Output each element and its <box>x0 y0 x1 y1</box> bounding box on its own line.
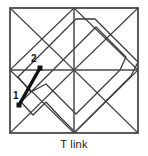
node-1-dot <box>17 103 22 108</box>
figure-caption: T link <box>0 138 148 150</box>
node-1-label: 1 <box>13 90 19 101</box>
node-2-label: 2 <box>31 53 37 64</box>
figure-container: 1 2 T link <box>0 0 148 156</box>
t-link-diagram: 1 2 <box>0 0 148 156</box>
node-2-dot <box>38 66 43 71</box>
